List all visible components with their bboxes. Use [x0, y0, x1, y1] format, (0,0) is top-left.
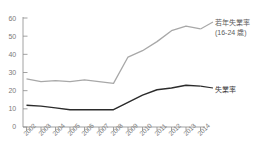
y-axis-ticks: [23, 18, 28, 127]
series-line-unemployment: [27, 85, 201, 110]
leader-line-youth: [201, 22, 214, 29]
leader-line-total: [201, 86, 214, 88]
series-line-youth-unemployment: [27, 26, 201, 83]
chart-container: 60 50 40 30 20 10 0 2002 2003 2004 2005 …: [0, 0, 260, 161]
chart-plot-area: [0, 0, 260, 161]
x-axis-ticks: [27, 127, 201, 131]
